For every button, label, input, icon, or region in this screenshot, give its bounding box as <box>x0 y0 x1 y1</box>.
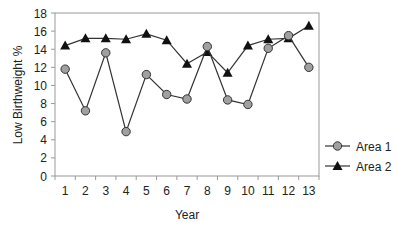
y-tick-label: 6 <box>40 115 47 129</box>
y-tick-label: 10 <box>34 79 48 93</box>
circle-marker-icon <box>162 90 170 98</box>
legend-item: Area 1 <box>325 140 392 154</box>
circle-marker-icon <box>305 63 313 71</box>
y-tick-label: 12 <box>34 61 48 75</box>
x-tick-label: 10 <box>241 184 255 198</box>
x-tick-label: 11 <box>262 184 275 198</box>
x-tick-label: 3 <box>102 184 109 198</box>
x-tick-label: 8 <box>204 184 211 198</box>
x-tick-label: 1 <box>62 184 69 198</box>
x-tick-label: 12 <box>282 184 296 198</box>
x-tick-label: 9 <box>224 184 231 198</box>
circle-marker-icon <box>142 70 150 78</box>
legend-label: Area 1 <box>356 140 392 154</box>
legend-label: Area 2 <box>356 160 392 174</box>
x-axis-label: Year <box>175 208 199 222</box>
x-tick-label: 2 <box>82 184 89 198</box>
x-axis: 12345678910111213 <box>55 176 319 198</box>
legend: Area 1Area 2 <box>325 140 392 174</box>
legend-item: Area 2 <box>325 160 392 174</box>
circle-marker-icon <box>61 65 69 73</box>
y-tick-label: 4 <box>40 133 47 147</box>
y-tick-label: 8 <box>40 97 47 111</box>
y-tick-label: 18 <box>34 7 48 21</box>
y-tick-label: 16 <box>34 25 48 39</box>
x-tick-label: 5 <box>143 184 150 198</box>
y-tick-label: 14 <box>34 43 48 57</box>
x-tick-label: 4 <box>123 184 130 198</box>
y-axis: 024681012141618 <box>34 7 55 184</box>
circle-marker-icon <box>183 95 191 103</box>
y-tick-label: 2 <box>40 151 47 165</box>
circle-marker-icon <box>264 44 272 52</box>
circle-marker-icon <box>333 142 341 150</box>
y-axis-label: Low Birthweight % <box>11 45 25 144</box>
circle-marker-icon <box>244 100 252 108</box>
circle-marker-icon <box>284 31 292 39</box>
circle-marker-icon <box>122 127 130 135</box>
y-tick-label: 0 <box>40 170 47 184</box>
circle-marker-icon <box>223 96 231 104</box>
x-tick-label: 7 <box>184 184 191 198</box>
line-chart: 024681012141618 12345678910111213 Low Bi… <box>0 0 398 230</box>
circle-marker-icon <box>203 42 211 50</box>
circle-marker-icon <box>81 107 89 115</box>
x-tick-label: 6 <box>163 184 170 198</box>
circle-marker-icon <box>102 49 110 57</box>
x-tick-label: 13 <box>302 184 316 198</box>
